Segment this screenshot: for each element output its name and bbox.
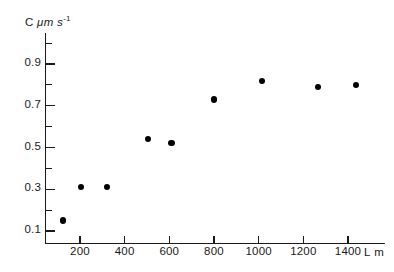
data-point bbox=[145, 136, 151, 142]
x-axis-line bbox=[45, 243, 385, 244]
data-point bbox=[168, 140, 174, 146]
x-axis-tick-label: 800 bbox=[204, 245, 224, 257]
x-axis-tick-label: 1000 bbox=[245, 245, 271, 257]
y-axis-tick-major bbox=[46, 147, 55, 148]
data-point bbox=[353, 82, 359, 88]
y-axis-title-exponent: -1 bbox=[63, 14, 71, 23]
scatter-plot-figure: C μm s-1 0.10.30.50.70.92004006008001000… bbox=[0, 0, 394, 272]
x-axis-tick-label: 1200 bbox=[290, 245, 316, 257]
x-axis-tick-label: 400 bbox=[115, 245, 135, 257]
data-point bbox=[211, 96, 217, 102]
y-axis-tick-minor bbox=[46, 126, 52, 127]
y-axis-title-symbol: C bbox=[25, 16, 34, 28]
data-point bbox=[104, 184, 110, 190]
y-axis-tick-label: 0.5 bbox=[24, 140, 41, 152]
x-axis-tick-label: 200 bbox=[70, 245, 90, 257]
x-axis-tick bbox=[124, 236, 125, 243]
x-axis-tick bbox=[169, 236, 170, 243]
y-axis-line bbox=[45, 33, 46, 244]
x-axis-tick bbox=[347, 236, 348, 243]
y-axis-tick-label: 0.3 bbox=[24, 181, 41, 193]
x-axis-tick-label: 600 bbox=[159, 245, 179, 257]
x-axis-tick bbox=[79, 236, 80, 243]
data-point bbox=[315, 84, 321, 90]
y-axis-title: C μm s-1 bbox=[25, 16, 71, 28]
y-axis-tick-major bbox=[46, 230, 55, 231]
y-axis-tick-minor bbox=[46, 210, 52, 211]
data-point bbox=[78, 184, 84, 190]
y-axis-tick-minor bbox=[46, 168, 52, 169]
y-axis-tick-major bbox=[46, 189, 55, 190]
y-axis-title-unit: μm s bbox=[37, 16, 63, 28]
data-point bbox=[60, 217, 66, 223]
x-axis-title: L m bbox=[364, 246, 384, 258]
y-axis-tick-label: 0.9 bbox=[24, 56, 41, 68]
data-point bbox=[259, 78, 265, 84]
y-axis-tick-label: 0.1 bbox=[24, 223, 41, 235]
y-axis-tick-major bbox=[46, 63, 55, 64]
y-axis-tick-label: 0.7 bbox=[24, 98, 41, 110]
x-axis-tick bbox=[303, 236, 304, 243]
x-axis-tick-label: 1400 bbox=[335, 245, 361, 257]
y-axis-tick-minor bbox=[46, 84, 52, 85]
x-axis-tick bbox=[213, 236, 214, 243]
y-axis-tick-major bbox=[46, 105, 55, 106]
x-axis-tick bbox=[258, 236, 259, 243]
y-axis-tick-minor bbox=[46, 43, 52, 44]
